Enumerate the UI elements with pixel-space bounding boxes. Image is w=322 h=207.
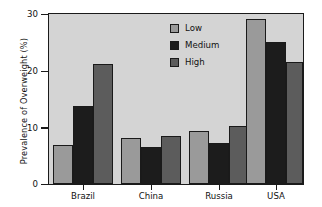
x-tick-mark-brazil [83,184,84,190]
legend-label-low: Low [185,24,202,33]
legend-swatch-high-icon [170,58,179,67]
x-axis-label-usa: USA [241,192,311,201]
bar-usa-medium [266,42,286,184]
bar-brazil-high [93,64,113,184]
plot-top-border [48,13,304,14]
x-axis-label-china: China [116,192,186,201]
x-tick-mark-china [151,184,152,190]
bar-china-medium [141,147,161,184]
bar-china-high [161,136,181,184]
y-tick-mark-10 [41,127,48,128]
legend-label-high: High [185,58,205,67]
bar-usa-high [286,62,303,184]
bar-brazil-medium [73,106,93,184]
bar-russia-low [189,131,209,184]
y-tick-label-10: 10 [0,124,38,133]
x-axis-label-brazil: Brazil [48,192,118,201]
legend-item-low: Low [170,24,202,33]
y-tick-label-0: 0 [0,180,38,189]
y-axis-title: Prevalence of Overweight (%) [19,21,29,181]
y-tick-mark-20 [41,71,48,72]
y-tick-label-20: 20 [0,67,38,76]
bar-chart: Prevalence of Overweight (%) 30 20 10 0 … [0,0,322,207]
y-tick-mark-0 [41,184,48,185]
y-tick-label-30: 30 [0,10,38,19]
legend-item-medium: Medium [170,41,219,50]
y-tick-mark-30 [41,14,48,15]
bar-russia-medium [209,143,229,184]
x-tick-mark-russia [219,184,220,190]
legend-label-medium: Medium [185,41,219,50]
bar-usa-low [246,19,266,185]
legend-swatch-medium-icon [170,41,179,50]
legend-item-high: High [170,58,205,67]
bar-brazil-low [53,145,73,184]
bar-china-low [121,138,141,184]
legend-swatch-low-icon [170,24,179,33]
x-tick-mark-usa [276,184,277,190]
